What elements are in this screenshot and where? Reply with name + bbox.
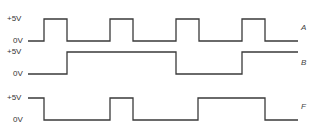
signal-f-high-label: +5V [7, 94, 21, 102]
signal-a-high-label: +5V [7, 15, 21, 23]
signal-f-low-label: 0V [13, 116, 23, 124]
waveforms [0, 0, 317, 132]
signal-b-high-label: +5V [7, 48, 21, 56]
signal-b-name: B [301, 59, 306, 67]
signal-f-name: F [301, 103, 306, 111]
waveform-b [28, 52, 298, 74]
waveform-f [28, 98, 298, 120]
waveform-a [28, 19, 298, 41]
signal-a-name: A [301, 24, 306, 32]
signal-a-low-label: 0V [13, 37, 23, 45]
timing-diagram: +5V 0V A +5V 0V B +5V 0V F [0, 0, 317, 132]
signal-b-low-label: 0V [13, 70, 23, 78]
